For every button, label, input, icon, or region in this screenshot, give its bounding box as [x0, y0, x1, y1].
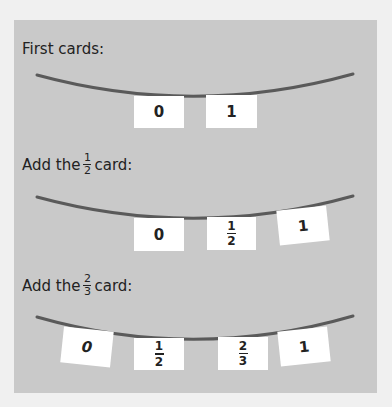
- label-fraction: 2 3: [83, 274, 91, 297]
- card-1: 1: [276, 205, 329, 245]
- section-2-label: Add the 1 2 card:: [22, 153, 132, 176]
- card-one-half: 1 2: [134, 338, 184, 370]
- card-one-half: 1 2: [207, 217, 256, 250]
- card-1: 1: [206, 95, 257, 128]
- card-value: 0: [154, 103, 164, 121]
- card-1: 1: [277, 326, 330, 366]
- card-value: 0: [81, 338, 93, 357]
- card-value: 0: [154, 226, 164, 244]
- denominator: 2: [84, 166, 91, 176]
- denominator: 3: [84, 287, 91, 297]
- numerator: 2: [239, 340, 247, 352]
- numerator: 1: [155, 340, 163, 352]
- card-0: 0: [134, 96, 184, 128]
- label-text: Add the: [22, 277, 80, 295]
- card-value: 1: [297, 216, 309, 235]
- denominator: 3: [239, 355, 247, 367]
- numerator: 2: [84, 274, 91, 284]
- numerator: 1: [227, 220, 235, 232]
- card-fraction: 2 3: [239, 340, 248, 368]
- section-3-label: Add the 2 3 card:: [22, 274, 132, 297]
- washing-lines: [0, 0, 392, 407]
- label-text: Add the: [22, 156, 80, 174]
- denominator: 2: [155, 356, 163, 368]
- card-fraction: 1 2: [155, 340, 164, 368]
- card-value: 1: [226, 103, 236, 121]
- label-fraction: 1 2: [83, 153, 91, 176]
- denominator: 2: [227, 235, 235, 247]
- section-1-label: First cards:: [22, 40, 104, 58]
- card-two-thirds: 2 3: [218, 337, 268, 370]
- card-fraction: 1 2: [227, 220, 236, 248]
- label-text: card:: [94, 277, 132, 295]
- numerator: 1: [84, 153, 91, 163]
- washing-line-1: [37, 74, 353, 96]
- card-value: 1: [298, 337, 310, 356]
- label-text: card:: [94, 156, 132, 174]
- card-0: 0: [134, 218, 184, 251]
- label-text: First cards:: [22, 40, 104, 58]
- card-0: 0: [60, 326, 113, 367]
